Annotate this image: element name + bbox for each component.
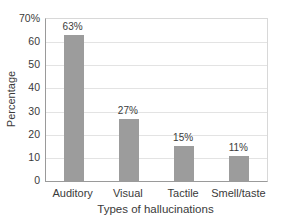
x-category-smell-taste: Smell/taste xyxy=(200,186,276,200)
plot-area xyxy=(45,18,268,182)
y-tick-10: 10 xyxy=(0,151,40,163)
bar-tactile xyxy=(174,146,194,181)
y-tick-20: 20 xyxy=(0,128,40,140)
y-tick-70: 70% xyxy=(0,12,40,24)
bar-auditory xyxy=(64,35,84,181)
bar-visual xyxy=(119,119,139,181)
y-tick-40: 40 xyxy=(0,81,40,93)
y-tick-0: 0 xyxy=(0,174,40,186)
y-tick-50: 50 xyxy=(0,58,40,70)
bar-value-label-smell-taste: 11% xyxy=(218,142,258,154)
y-axis-title: Percentage xyxy=(5,71,17,127)
bar-value-label-visual: 27% xyxy=(108,105,148,117)
hallucinations-bar-chart: Percentage 70%6050403020100 63%27%15%11%… xyxy=(0,0,282,223)
bar-value-label-auditory: 63% xyxy=(53,21,93,33)
y-tick-30: 30 xyxy=(0,105,40,117)
x-axis-title: Types of hallucinations xyxy=(45,203,266,215)
y-tick-60: 60 xyxy=(0,35,40,47)
bar-smell-taste xyxy=(229,156,249,181)
bar-value-label-tactile: 15% xyxy=(163,132,203,144)
